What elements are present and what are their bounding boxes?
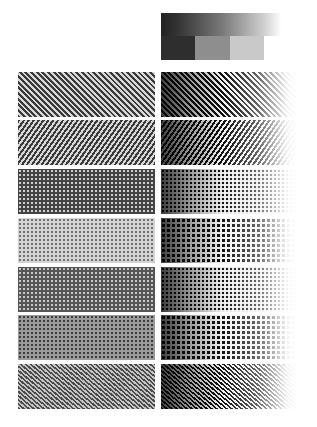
right-pattern-row-2	[161, 120, 298, 165]
right-pattern-row-6	[161, 315, 298, 360]
left-pattern-row-2	[18, 120, 155, 165]
left-pattern-row-4	[18, 218, 155, 263]
right-pattern-row-3	[161, 169, 298, 214]
reference-steps	[161, 36, 298, 60]
reference-gradient	[161, 13, 298, 36]
reference-step-3	[230, 36, 264, 60]
reference-step-4	[264, 36, 298, 60]
reference-step-2	[195, 36, 229, 60]
right-pattern-row-1	[161, 72, 298, 117]
left-pattern-row-5	[18, 267, 155, 312]
left-pattern-row-3	[18, 169, 155, 214]
reference-gray-strip	[161, 13, 298, 60]
right-pattern-row-4	[161, 218, 298, 263]
right-pattern-row-5	[161, 267, 298, 312]
right-pattern-row-7	[161, 364, 298, 409]
left-pattern-row-7	[18, 364, 155, 409]
left-pattern-row-6	[18, 315, 155, 360]
left-pattern-row-1	[18, 72, 155, 117]
reference-step-1	[161, 36, 195, 60]
